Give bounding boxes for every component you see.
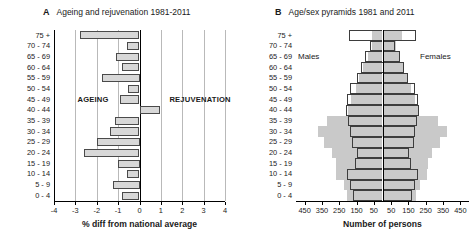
x-tick-label-b-4: 50 [370,206,378,215]
pyramid-2011-male-40-44 [346,105,382,116]
pyramid-2011-female-20-24 [383,148,410,159]
y-label-b-40-44: 40 - 44 [242,105,292,114]
x-tick-label-b-0: 450 [298,206,310,215]
y-label-b-75+: 75 + [242,31,292,40]
pyramid-2011-female-70-74 [383,41,396,52]
x-tick-label-b-7: 250 [420,206,432,215]
y-label-b-10-14: 10 - 14 [242,169,292,178]
pyramid-2011-female-60-64 [383,62,405,73]
pyramid-2011-male-45-49 [347,94,382,105]
y-label-b-5-9: 5 - 9 [242,180,292,189]
pyramid-2011-male-5-9 [350,180,382,191]
x-tick-b-5 [391,202,392,205]
pyramid-2011-male-75+ [349,30,383,41]
pyramid-2011-female-40-44 [383,105,419,116]
x-tick-label-b-5: 50 [387,206,395,215]
pyramid-2011-female-65-69 [383,51,400,62]
y-label-b-15-19: 15 - 19 [242,159,292,168]
pyramid-2011-male-10-14 [347,169,382,180]
x-tick-label-b-2: 250 [333,206,345,215]
pyramid-2011-male-0-4 [353,190,382,201]
x-axis-title-b: Number of persons [343,219,422,229]
pyramid-2011-male-35-39 [348,116,383,127]
x-tick-b-0 [305,202,306,205]
label-females: Females [420,52,451,61]
y-label-b-0-4: 0 - 4 [242,191,292,200]
pyramid-2011-female-55-59 [383,73,409,84]
figure-container: AAgeing and rejuvenation 1981-2011 BAge/… [0,0,476,251]
x-tick-label-b-8: 350 [437,206,449,215]
pyramid-2011-male-25-29 [352,137,382,148]
pyramid-2011-male-60-64 [361,62,383,73]
pyramid-2011-male-55-59 [357,73,382,84]
pyramid-2011-male-70-74 [370,41,383,52]
y-label-b-60-64: 60 - 64 [242,63,292,72]
label-males: Males [298,52,319,61]
x-tick-label-b-6: 150 [402,206,414,215]
x-tick-b-1 [322,202,323,205]
y-label-b-25-29: 25 - 29 [242,137,292,146]
x-tick-b-3 [357,202,358,205]
pyramid-2011-female-0-4 [383,190,412,201]
x-tick-b-8 [443,202,444,205]
x-tick-b-9 [460,202,461,205]
y-label-b-50-54: 50 - 54 [242,84,292,93]
pyramid-2011-male-30-34 [350,126,382,137]
chart-b-age-sex-pyramids: 75 +70 - 7465 - 6960 - 6455 - 5950 - 544… [0,0,476,251]
y-label-b-55-59: 55 - 59 [242,73,292,82]
x-tick-b-2 [339,202,340,205]
y-label-b-65-69: 65 - 69 [242,52,292,61]
pyramid-2011-female-35-39 [383,116,418,127]
pyramid-centre-line [383,30,384,201]
pyramid-2011-female-25-29 [383,137,414,148]
pyramid-2011-female-50-54 [383,83,416,94]
pyramid-2011-female-15-19 [383,158,412,169]
y-label-b-20-24: 20 - 24 [242,148,292,157]
pyramid-2011-male-65-69 [365,51,382,62]
pyramid-2011-female-45-49 [383,94,418,105]
pyramid-2011-female-10-14 [383,169,418,180]
x-tick-label-b-9: 450 [454,206,466,215]
y-label-b-30-34: 30 - 34 [242,127,292,136]
y-label-b-70-74: 70 - 74 [242,41,292,50]
x-tick-label-b-3: 150 [350,206,362,215]
pyramid-2011-female-30-34 [383,126,415,137]
y-label-b-35-39: 35 - 39 [242,116,292,125]
x-tick-b-4 [374,202,375,205]
pyramid-2011-female-75+ [383,30,417,41]
pyramid-2011-female-5-9 [383,180,415,191]
pyramid-2011-male-50-54 [350,83,383,94]
x-tick-label-b-1: 350 [316,206,328,215]
pyramid-2011-male-20-24 [357,148,383,159]
x-tick-b-6 [408,202,409,205]
y-label-b-45-49: 45 - 49 [242,95,292,104]
x-tick-b-7 [426,202,427,205]
pyramid-2011-male-15-19 [355,158,383,169]
